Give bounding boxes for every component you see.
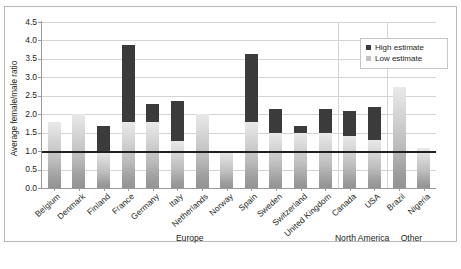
bar-group[interactable] [72,22,85,188]
bar-low-estimate [319,133,332,188]
chart-figure: 4.54.03.53.02.52.01.51.00.50.0 BelgiumDe… [0,0,461,269]
bar-group[interactable] [294,22,307,188]
bar-low-estimate [48,122,61,188]
legend-swatch-low-icon [366,56,371,61]
bar-group[interactable] [220,22,233,188]
bar-high-estimate [368,107,381,140]
bar-low-estimate [393,87,406,188]
bar-low-estimate [146,122,159,188]
bar-low-estimate [368,140,381,188]
bar-group[interactable] [196,22,209,188]
bar-low-estimate [417,148,430,188]
bar-low-estimate [97,151,110,188]
bar-high-estimate [319,109,332,133]
bar-high-estimate [343,111,356,135]
legend-item-high: High estimate [366,42,443,53]
bar-high-estimate [269,109,282,133]
group-separator [338,22,339,188]
bar-low-estimate [220,151,233,188]
reference-line-1.0 [42,151,436,152]
bar-high-estimate [294,126,307,133]
legend-label-high: High estimate [375,43,424,52]
gridline [42,188,436,189]
bar-group[interactable] [122,22,135,188]
legend-label-low: Low estimate [375,54,422,63]
bar-high-estimate [97,126,110,151]
bar-high-estimate [122,45,135,121]
legend-swatch-high-icon [366,45,371,50]
bar-low-estimate [245,122,258,188]
clipped-caption [150,0,370,5]
bar-group[interactable] [146,22,159,188]
bar-high-estimate [146,104,159,122]
bar-group[interactable] [343,22,356,188]
legend-item-low: Low estimate [366,53,443,64]
bar-group[interactable] [48,22,61,188]
bar-high-estimate [245,54,258,122]
bar-low-estimate [269,133,282,188]
bar-group[interactable] [171,22,184,188]
chart-legend: High estimate Low estimate [360,38,448,69]
bar-group[interactable] [245,22,258,188]
y-axis-title: Average female/male ratio [10,39,19,179]
bar-low-estimate [171,141,184,188]
bar-group[interactable] [97,22,110,188]
bar-low-estimate [294,133,307,188]
bar-high-estimate [171,101,184,142]
bar-group[interactable] [269,22,282,188]
bar-group[interactable] [319,22,332,188]
bar-low-estimate [343,136,356,188]
bar-low-estimate [122,122,135,188]
